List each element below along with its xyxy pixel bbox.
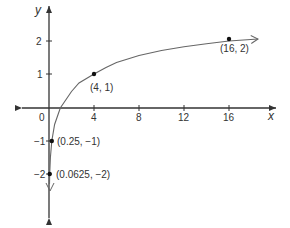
curve-down-arrow-icon [46,183,54,191]
point-label-4: (4, 1) [90,82,113,93]
origin-label: 0 [39,112,45,123]
point-16 [227,37,231,41]
y-tick-label-1: 1 [37,69,43,80]
y-tick-label-neg2: −2 [34,169,46,180]
point-label-0.0625: (0.0625, −2) [56,169,110,180]
point-label-16: (16, 2) [220,43,249,54]
x-tick-label-12: 12 [178,112,190,123]
x-tick-label-16: 16 [223,112,235,123]
y-axis-label: y [34,3,42,17]
point-label-0.25: (0.25, −1) [57,136,100,147]
x-axis-label: x [267,109,275,123]
x-tick-label-8: 8 [136,112,142,123]
point-0.25 [50,139,54,143]
x-tick-label-4: 4 [91,112,97,123]
y-tick-label-2: 2 [36,36,42,47]
y-tick-label-neg1: −1 [34,136,46,147]
point-0.0625 [48,172,52,176]
point-4 [92,72,96,76]
log-graph: y x 0 4 8 12 16 2 1 −1 −2 (0.0625, −2) (… [0,0,290,228]
